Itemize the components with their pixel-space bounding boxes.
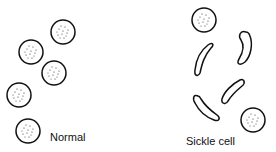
normal-cell [16, 119, 40, 143]
normal-cell [42, 61, 66, 85]
normal-label: Normal [50, 131, 85, 143]
round-cell [241, 108, 265, 132]
blood-cell-diagram [0, 0, 276, 152]
round-cell [192, 8, 216, 32]
normal-cell [19, 40, 43, 64]
sickle-cell [194, 95, 220, 120]
sickle-cells-group [192, 8, 265, 132]
sickle-cell [222, 80, 244, 104]
normal-cell [51, 20, 75, 44]
normal-cells-group [7, 20, 75, 143]
sickle-cell-label: Sickle cell [186, 135, 235, 147]
sickle-cell [238, 32, 251, 65]
sickle-cell [195, 44, 213, 76]
normal-cell [7, 83, 31, 107]
